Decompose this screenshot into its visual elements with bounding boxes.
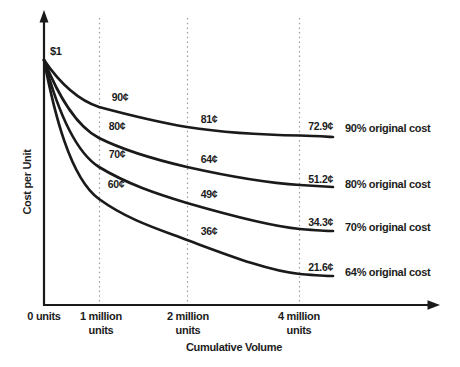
point-label-51-2c: 51.2¢ (308, 173, 333, 185)
x-tick-2-million-line2: units (176, 324, 201, 336)
curves (44, 60, 333, 276)
y-axis-title: Cost per Unit (21, 149, 33, 215)
point-label-21-6c: 21.6¢ (308, 261, 333, 273)
point-label-70c: 70¢ (109, 148, 126, 160)
point-label-80c: 80¢ (109, 120, 126, 132)
x-tick-4-million-line2: units (287, 324, 312, 336)
point-label-81c: 81¢ (201, 113, 218, 125)
series-label-90-percent: 90% original cost (345, 122, 431, 134)
point-label-72-9c: 72.9¢ (308, 120, 333, 132)
gridlines (100, 18, 300, 304)
curve-70-percent (44, 60, 333, 231)
x-tick-1-million-line1: 1 million (80, 310, 122, 322)
point-label-64c: 64¢ (201, 153, 218, 165)
point-label-36c: 36¢ (201, 225, 218, 237)
curve-90-percent (44, 60, 333, 137)
series-label-80-percent: 80% original cost (345, 178, 431, 190)
x-tick-1-million-line2: units (89, 324, 114, 336)
point-label-34-3c: 34.3¢ (308, 216, 333, 228)
x-tick-labels: 0 units 1 million units 2 million units … (27, 310, 320, 336)
point-labels-4-million: 72.9¢ 51.2¢ 34.3¢ 21.6¢ (308, 120, 333, 273)
y-axis-arrow-icon (40, 10, 49, 23)
point-label-49c: 49¢ (201, 188, 218, 200)
series-label-64-percent: 64% original cost (345, 266, 431, 278)
x-tick-4-million-line1: 4 million (278, 310, 320, 322)
curve-80-percent (44, 60, 333, 187)
start-price-label: $1 (50, 45, 62, 57)
point-label-60c: 60¢ (108, 178, 125, 190)
x-tick-0-units-line1: 0 units (27, 310, 61, 322)
x-axis-title: Cumulative Volume (186, 341, 282, 353)
point-label-90c: 90¢ (112, 91, 129, 103)
series-labels: 90% original cost 80% original cost 70% … (345, 122, 431, 278)
experience-curve-chart: $1 90¢ 80¢ 70¢ 60¢ 81¢ 64¢ 49¢ 36¢ 72.9¢… (0, 0, 460, 367)
x-axis-arrow-icon (428, 300, 441, 310)
x-tick-2-million-line1: 2 million (167, 310, 209, 322)
series-label-70-percent: 70% original cost (345, 221, 431, 233)
